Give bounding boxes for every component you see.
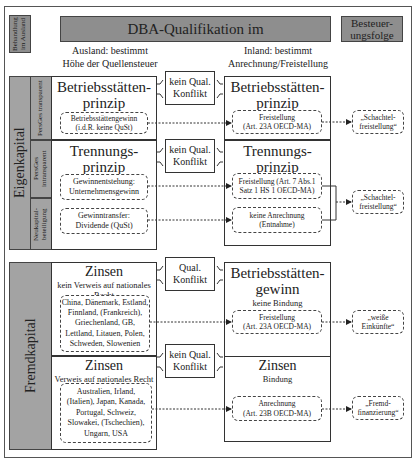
brace-fk-2 bbox=[157, 353, 223, 371]
brace-ek-2 bbox=[157, 148, 223, 166]
connectors bbox=[0, 0, 417, 464]
brace-ek-1 bbox=[157, 80, 223, 98]
brace-fk-1 bbox=[157, 266, 223, 284]
bracket-trennung bbox=[322, 186, 336, 220]
